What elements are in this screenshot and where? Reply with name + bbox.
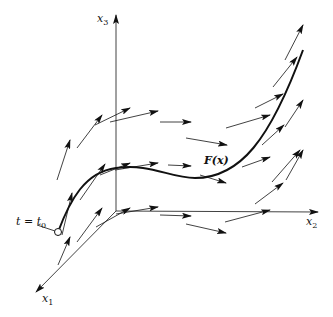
- vector-arrow: [255, 183, 283, 204]
- vector-arrow: [96, 208, 130, 227]
- vector-arrow: [262, 125, 284, 145]
- vector-arrow: [168, 165, 191, 166]
- vector-arrow: [272, 150, 300, 182]
- vector-arrow: [285, 100, 303, 127]
- vector-arrow: [286, 150, 303, 180]
- vector-arrow: [186, 138, 227, 145]
- vector-arrow: [77, 115, 102, 148]
- curve-label-F-of-x: F(x): [204, 154, 229, 167]
- vector-arrow: [226, 115, 270, 128]
- vector-arrow: [110, 111, 158, 122]
- vector-arrow: [62, 193, 72, 235]
- vector-field: [57, 25, 303, 265]
- start-point-marker: [55, 229, 62, 236]
- vector-arrow: [95, 108, 130, 125]
- vector-arrow: [80, 164, 105, 200]
- axis-label-x1: x1: [42, 292, 53, 307]
- vector-arrow: [186, 224, 226, 233]
- axis-x2: [116, 211, 318, 212]
- vector-arrow: [273, 57, 297, 87]
- vector-arrow: [242, 157, 270, 167]
- vector-arrow: [58, 237, 70, 265]
- axis-label-x2: x2: [306, 215, 317, 230]
- axes: [36, 15, 318, 292]
- axis-label-x3: x3: [97, 12, 108, 27]
- vector-arrow: [116, 207, 158, 214]
- vector-arrow: [57, 140, 70, 180]
- vector-field-diagram: x3 x2 x1 F(x) t = t0: [0, 0, 333, 317]
- vector-arrow: [77, 208, 102, 242]
- axis-x1: [36, 211, 116, 292]
- vector-arrow: [160, 215, 191, 216]
- start-time-label: t = t0: [16, 215, 46, 230]
- diagram-svg: [0, 0, 333, 317]
